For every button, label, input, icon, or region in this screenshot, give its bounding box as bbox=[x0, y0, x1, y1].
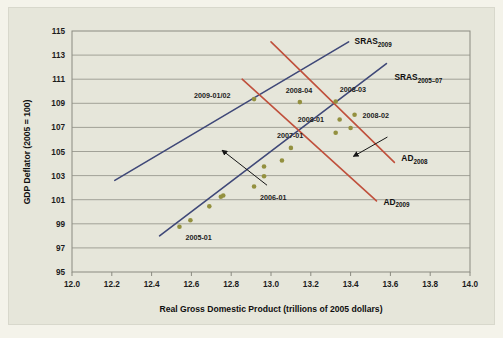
point-label: 2008-01 bbox=[298, 115, 324, 124]
curve-labels: SRAS2005–07SRAS2009AD2008AD2009 bbox=[355, 36, 443, 208]
curve-lines bbox=[115, 42, 395, 236]
y-tick-label: 105 bbox=[51, 148, 65, 157]
curve-ad_2008 bbox=[271, 42, 394, 163]
data-point bbox=[252, 184, 257, 189]
x-tick-label: 13.0 bbox=[263, 280, 279, 289]
y-tick-label: 103 bbox=[51, 172, 65, 181]
data-point bbox=[289, 146, 294, 151]
point-label: 2007-01 bbox=[277, 131, 303, 140]
y-tick-label: 113 bbox=[52, 51, 66, 60]
data-point bbox=[262, 174, 267, 179]
data-point bbox=[333, 131, 338, 136]
x-tick-label: 13.8 bbox=[422, 280, 438, 289]
x-tick-label: 13.6 bbox=[382, 280, 398, 289]
y-tick-label: 95 bbox=[56, 268, 66, 277]
curve-label-subscript: 2009 bbox=[396, 201, 411, 208]
data-point bbox=[298, 100, 303, 105]
curve-label-ad_2009: AD2009 bbox=[383, 197, 410, 209]
point-label: 2008-04 bbox=[286, 86, 312, 95]
data-point bbox=[348, 126, 353, 131]
data-point bbox=[221, 193, 226, 198]
x-tick-label: 13.2 bbox=[303, 280, 319, 289]
point-label: 2005-01 bbox=[185, 233, 211, 242]
data-points bbox=[177, 97, 357, 229]
y-tick-label: 99 bbox=[56, 220, 66, 229]
data-point bbox=[252, 97, 257, 102]
point-labels: 2005-012006-012007-012008-012008-022008-… bbox=[185, 85, 389, 241]
data-point bbox=[207, 204, 212, 209]
y-tick-label: 109 bbox=[51, 99, 65, 108]
curve-label-ad_2008: AD2008 bbox=[401, 153, 428, 165]
y-tick-label: 115 bbox=[52, 27, 66, 36]
x-tick-label: 12.4 bbox=[144, 280, 160, 289]
curve-sras_2009 bbox=[115, 42, 349, 181]
x-tick-label: 13.4 bbox=[343, 280, 359, 289]
shift-arrows bbox=[222, 137, 387, 185]
curve-label-sras_2009: SRAS2009 bbox=[355, 36, 393, 48]
x-tick-label: 12.8 bbox=[223, 280, 239, 289]
y-tick-label: 107 bbox=[51, 123, 65, 132]
data-point bbox=[352, 112, 357, 117]
point-label: 2008-03 bbox=[340, 85, 366, 94]
data-point bbox=[333, 99, 338, 104]
x-tick-label: 12.2 bbox=[104, 280, 120, 289]
y-axis-title: GDP Deflator (2005 = 100) bbox=[22, 100, 32, 205]
data-point bbox=[280, 158, 285, 163]
y-tick-label: 111 bbox=[52, 75, 65, 84]
point-label: 2008-02 bbox=[363, 111, 389, 120]
curve-label-sras_2005-07: SRAS2005–07 bbox=[394, 72, 442, 84]
sras-shift-arrow bbox=[222, 150, 267, 185]
data-point bbox=[188, 218, 193, 223]
point-label: 2009-01/02 bbox=[194, 91, 230, 100]
data-point bbox=[262, 164, 267, 169]
x-tick-label: 12.6 bbox=[183, 280, 199, 289]
point-label: 2006-01 bbox=[260, 193, 286, 202]
x-axis-title: Real Gross Domestic Product (trillions o… bbox=[159, 304, 382, 314]
curve-ad_2009 bbox=[242, 79, 376, 201]
curve-label-subscript: 2009 bbox=[378, 41, 393, 48]
x-tick-label: 12.0 bbox=[64, 280, 80, 289]
y-tick-label: 97 bbox=[56, 244, 66, 253]
x-tick-label: 14.0 bbox=[462, 280, 478, 289]
chart-svg: 95979910110310510710911111311512.012.212… bbox=[0, 0, 503, 338]
figure-container: 95979910110310510710911111311512.012.212… bbox=[0, 0, 503, 338]
curve-label-subscript: 2005–07 bbox=[418, 77, 443, 84]
curve-label-subscript: 2008 bbox=[413, 158, 428, 165]
data-point bbox=[337, 117, 342, 122]
data-point bbox=[177, 225, 182, 230]
y-tick-label: 101 bbox=[51, 196, 65, 205]
